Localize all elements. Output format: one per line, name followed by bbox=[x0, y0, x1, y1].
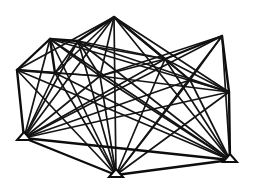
figure-root bbox=[0, 0, 253, 193]
canvas-background bbox=[0, 0, 253, 193]
graph-canvas bbox=[0, 0, 253, 193]
graph-edge-shoulder-far-right-to-hub-bottom-right bbox=[229, 92, 230, 160]
